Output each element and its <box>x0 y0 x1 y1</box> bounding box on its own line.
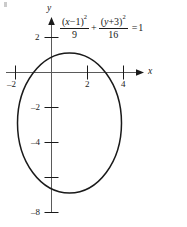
x-axis-arrowhead <box>136 69 144 76</box>
y-axis-arrowhead <box>48 17 55 25</box>
equation-term-2: (y+3)2 16 <box>99 16 128 40</box>
x-axis-label: x <box>148 67 152 77</box>
equation-equals-sign: = <box>129 23 139 33</box>
x-tick-label--2: –2 <box>7 80 16 89</box>
ellipse-curve <box>18 53 122 193</box>
y-tick-label--8: –8 <box>31 208 40 217</box>
term1-numerator: (x−1)2 <box>60 16 89 28</box>
term2-numerator: (y+3)2 <box>99 16 128 28</box>
equation-plus-operator: + <box>90 23 98 33</box>
figure-canvas: –2 2 4 2 –2 –4 –8 x y (x−1)2 9 + (y+3)2 … <box>0 0 187 227</box>
term1-denominator: 9 <box>72 29 77 40</box>
ellipse-equation: (x−1)2 9 + (y+3)2 16 = 1 <box>59 16 143 40</box>
equation-right-hand-side: 1 <box>138 23 143 33</box>
y-tick-label--4: –4 <box>31 138 40 147</box>
x-tick-label-4: 4 <box>121 80 126 89</box>
term2-exponent: 2 <box>122 13 125 20</box>
equation-term-1: (x−1)2 9 <box>60 16 89 40</box>
x-tick-label-2: 2 <box>85 80 90 89</box>
y-tick-label-2: 2 <box>35 33 40 42</box>
term1-exponent: 2 <box>84 13 87 20</box>
y-axis-label: y <box>47 4 51 14</box>
y-tick-label--2: –2 <box>31 103 40 112</box>
term2-denominator: 16 <box>108 29 118 40</box>
